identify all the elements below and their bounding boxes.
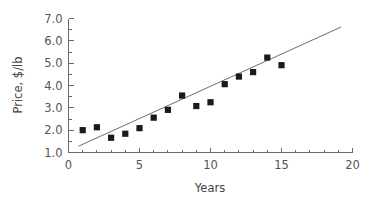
x-tick-label: 0 [65, 158, 72, 172]
data-point-marker [264, 54, 270, 60]
data-point-marker [151, 115, 157, 121]
data-point-marker [165, 107, 171, 113]
chart-figure: 1.02.03.04.05.06.07.005101520 Price, $/l… [0, 0, 373, 203]
y-tick-label: 6.0 [44, 34, 62, 48]
x-tick-label: 15 [274, 158, 289, 172]
data-point-marker [108, 135, 114, 141]
y-tick-label: 7.0 [44, 12, 62, 26]
data-point-marker [250, 69, 256, 75]
data-points [80, 54, 285, 140]
axis-ticks [69, 19, 353, 153]
x-tick-label: 20 [345, 158, 360, 172]
y-tick-label: 1.0 [44, 146, 62, 160]
data-point-marker [207, 99, 213, 105]
y-tick-label: 2.0 [44, 123, 62, 137]
data-point-marker [80, 127, 86, 133]
y-tick-label: 5.0 [44, 56, 62, 70]
data-point-marker [236, 73, 242, 79]
y-tick-label: 4.0 [44, 79, 62, 93]
scatter-plot-canvas: 1.02.03.04.05.06.07.005101520 Price, $/l… [0, 0, 373, 203]
data-point-marker [222, 81, 228, 87]
y-tick-label: 3.0 [44, 101, 62, 115]
data-point-marker [94, 124, 100, 130]
trendline [78, 27, 341, 146]
y-axis-title: Price, $/lb [11, 56, 25, 113]
x-tick-label: 5 [136, 158, 143, 172]
axis-tick-labels: 1.02.03.04.05.06.07.005101520 [44, 12, 360, 172]
x-axis-title: Years [194, 181, 225, 195]
trendline-segment [78, 27, 341, 146]
x-tick-label: 10 [203, 158, 218, 172]
data-point-marker [136, 125, 142, 131]
data-point-marker [278, 62, 284, 68]
data-point-marker [193, 103, 199, 109]
data-point-marker [179, 92, 185, 98]
data-point-marker [122, 131, 128, 137]
plot-axes [69, 19, 353, 153]
